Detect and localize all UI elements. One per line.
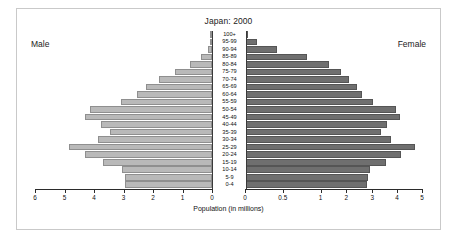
x-tick-label-female: 4 xyxy=(395,194,399,201)
age-group-labels: 100+95-9990-9485-8980-8475-7970-7465-696… xyxy=(213,31,246,189)
bar-female-65-69 xyxy=(245,84,357,91)
age-group-label: 55-59 xyxy=(213,99,246,105)
bar-female-75-79 xyxy=(245,69,341,76)
x-tick-male xyxy=(183,189,184,193)
bar-female-35-39 xyxy=(245,129,381,136)
bar-male-25-29 xyxy=(69,144,212,151)
x-tick-female xyxy=(245,189,246,193)
x-axis-label: Population (in millions) xyxy=(17,205,440,212)
pyramid-plot-area: 100+95-9990-9485-8980-8475-7970-7465-696… xyxy=(35,31,422,189)
age-group-label: 95-99 xyxy=(213,39,246,45)
bar-male-40-44 xyxy=(101,121,212,128)
age-group-label: 50-54 xyxy=(213,107,246,113)
x-tick-label-female: 2 xyxy=(345,194,349,201)
bar-female-0-4 xyxy=(245,181,367,188)
x-tick-male xyxy=(65,189,66,193)
x-tick-label-male: 3 xyxy=(122,194,126,201)
x-tick-label-male: 6 xyxy=(33,194,37,201)
bar-male-45-49 xyxy=(85,114,212,121)
x-tick-label-female: 0.5 xyxy=(278,194,287,201)
x-tick-male xyxy=(124,189,125,193)
x-tick-male xyxy=(212,189,213,193)
x-tick-label-female: 1 xyxy=(319,194,323,201)
age-group-label: 5-9 xyxy=(213,175,246,181)
chart-title: Japan: 2000 xyxy=(17,16,440,26)
x-tick-female xyxy=(372,189,373,193)
bar-male-75-79 xyxy=(175,69,212,76)
bar-female-5-9 xyxy=(245,174,368,181)
age-group-label: 70-74 xyxy=(213,77,246,83)
female-axis-line xyxy=(245,189,422,190)
age-group-label: 40-44 xyxy=(213,122,246,128)
bar-male-50-54 xyxy=(90,106,212,113)
bar-female-70-74 xyxy=(245,76,349,83)
male-bars-group xyxy=(35,31,212,189)
bar-male-65-69 xyxy=(146,84,212,91)
x-tick-female xyxy=(283,189,284,193)
bar-male-0-4 xyxy=(125,181,212,188)
age-group-label: 45-49 xyxy=(213,115,246,121)
age-group-label: 65-69 xyxy=(213,84,246,90)
bar-male-5-9 xyxy=(125,174,212,181)
age-group-label: 10-14 xyxy=(213,167,246,173)
bar-female-20-24 xyxy=(245,151,401,158)
bar-female-80-84 xyxy=(245,61,329,68)
x-tick-male xyxy=(35,189,36,193)
bar-male-70-74 xyxy=(159,76,212,83)
age-group-label: 60-64 xyxy=(213,92,246,98)
bar-male-35-39 xyxy=(110,129,212,136)
x-tick-label-male: 2 xyxy=(151,194,155,201)
age-group-label: 80-84 xyxy=(213,62,246,68)
bar-male-15-19 xyxy=(103,159,212,166)
bar-female-55-59 xyxy=(245,99,373,106)
bar-male-60-64 xyxy=(137,91,212,98)
bar-male-55-59 xyxy=(121,99,212,106)
bar-female-15-19 xyxy=(245,159,386,166)
x-tick-female xyxy=(397,189,398,193)
x-tick-female xyxy=(346,189,347,193)
x-tick-label-female: 0 xyxy=(243,194,247,201)
x-tick-label-male: 0 xyxy=(210,194,214,201)
age-group-label: 25-29 xyxy=(213,145,246,151)
age-group-label: 75-79 xyxy=(213,69,246,75)
x-tick-male xyxy=(153,189,154,193)
x-tick-female xyxy=(422,189,423,193)
bar-female-60-64 xyxy=(245,91,362,98)
x-tick-label-female: 5 xyxy=(420,194,424,201)
age-group-label: 30-34 xyxy=(213,137,246,143)
age-group-label: 90-94 xyxy=(213,47,246,53)
bar-female-30-34 xyxy=(245,136,391,143)
bar-male-20-24 xyxy=(85,151,212,158)
bar-female-90-94 xyxy=(245,46,277,53)
x-tick-label-male: 1 xyxy=(181,194,185,201)
bar-male-10-14 xyxy=(122,166,212,173)
x-tick-label-female: 3 xyxy=(370,194,374,201)
age-group-label: 20-24 xyxy=(213,152,246,158)
age-group-label: 35-39 xyxy=(213,130,246,136)
bar-female-85-89 xyxy=(245,54,307,61)
x-tick-female xyxy=(321,189,322,193)
age-group-label: 0-4 xyxy=(213,182,246,188)
bar-female-10-14 xyxy=(245,166,370,173)
bar-male-30-34 xyxy=(98,136,212,143)
female-bars-group xyxy=(245,31,422,189)
age-group-label: 15-19 xyxy=(213,160,246,166)
x-tick-label-male: 4 xyxy=(92,194,96,201)
age-group-label: 85-89 xyxy=(213,54,246,60)
age-group-label: 100+ xyxy=(213,32,246,38)
x-tick-male xyxy=(94,189,95,193)
bar-female-45-49 xyxy=(245,114,400,121)
bar-female-50-54 xyxy=(245,106,396,113)
bar-female-40-44 xyxy=(245,121,387,128)
bar-female-25-29 xyxy=(245,144,415,151)
x-tick-label-male: 5 xyxy=(63,194,67,201)
chart-frame: Japan: 2000 Male Female 100+95-9990-9485… xyxy=(16,8,441,230)
bar-male-85-89 xyxy=(201,54,212,61)
bar-male-80-84 xyxy=(190,61,212,68)
age-group-label-column: 100+95-9990-9485-8980-8475-7970-7465-696… xyxy=(212,31,247,189)
